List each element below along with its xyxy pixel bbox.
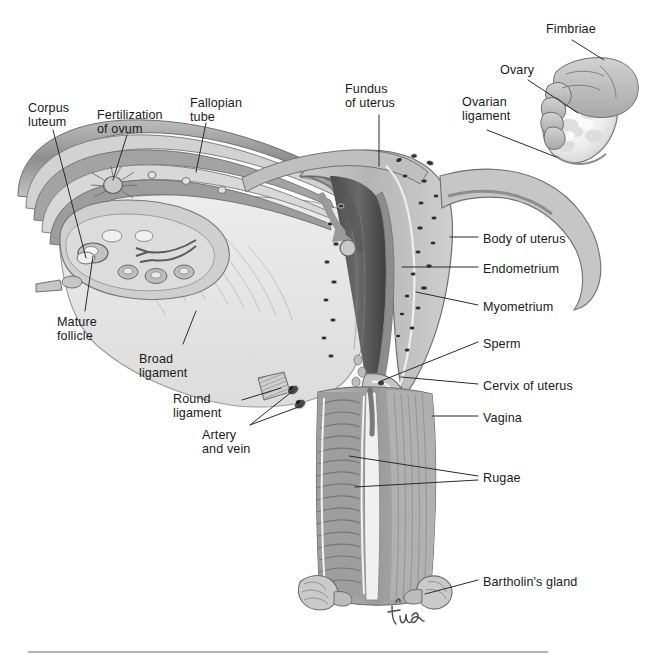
label-ovarian-ligament: Ovarian ligament bbox=[462, 95, 510, 123]
label-vagina: Vagina bbox=[483, 411, 522, 425]
label-fertilization-of-ovum: Fertilization of ovum bbox=[97, 108, 163, 136]
label-fimbriae: Fimbriae bbox=[546, 22, 596, 36]
label-corpus-luteum: Corpus luteum bbox=[28, 101, 69, 129]
label-cervix-of-uterus: Cervix of uterus bbox=[483, 379, 573, 393]
anatomy-illustration bbox=[0, 0, 656, 665]
label-bartholins-gland: Bartholin's gland bbox=[483, 575, 577, 589]
label-ovary: Ovary bbox=[500, 63, 534, 77]
leader-fimbriae bbox=[572, 40, 604, 60]
label-artery-and-vein: Artery and vein bbox=[202, 428, 250, 456]
label-sperm: Sperm bbox=[483, 337, 521, 351]
label-rugae: Rugae bbox=[483, 471, 521, 485]
label-myometrium: Myometrium bbox=[483, 300, 553, 314]
label-mature-follicle: Mature follicle bbox=[57, 315, 97, 343]
label-round-ligament: Round ligament bbox=[173, 392, 221, 420]
label-endometrium: Endometrium bbox=[483, 262, 559, 276]
figure-canvas: Fimbriae Ovary Ovarian ligament Fundus o… bbox=[0, 0, 656, 665]
vagina bbox=[317, 387, 436, 605]
label-broad-ligament: Broad ligament bbox=[139, 352, 187, 380]
label-fundus-of-uterus: Fundus of uterus bbox=[345, 82, 395, 110]
label-body-of-uterus: Body of uterus bbox=[483, 232, 566, 246]
leader-artery-vein-b bbox=[250, 406, 301, 425]
label-fallopian-tube: Fallopian tube bbox=[190, 96, 242, 124]
